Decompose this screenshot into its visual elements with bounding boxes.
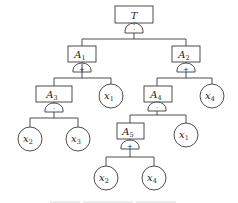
- event-A3: A3 ·: [30, 86, 78, 127]
- basic-event-x1: x1: [174, 123, 198, 147]
- basic-event-x1: x1: [99, 84, 123, 108]
- event-A5: A5 +: [106, 123, 154, 166]
- gate-symbol: +: [183, 66, 189, 74]
- basic-event-x4: x4: [200, 84, 224, 108]
- basic-event-x3: x3: [66, 127, 90, 151]
- basic-event-x2: x2: [18, 127, 42, 151]
- gate-symbol: ·: [156, 104, 158, 112]
- figure-caption-faint: [50, 192, 190, 198]
- fault-tree-diagram: T · A1 + A2 + A3 ·: [0, 0, 238, 203]
- event-T: T ·: [82, 6, 186, 46]
- gate-symbol: +: [127, 143, 133, 151]
- event-A4: A4 ·: [130, 86, 186, 123]
- gate-symbol: ·: [133, 26, 135, 34]
- gate-symbol: ·: [53, 105, 55, 113]
- event-A1: A1 +: [54, 46, 111, 86]
- event-A2: A2 +: [157, 46, 212, 86]
- basic-event-x2: x2: [94, 166, 118, 190]
- basic-event-x4: x4: [142, 166, 166, 190]
